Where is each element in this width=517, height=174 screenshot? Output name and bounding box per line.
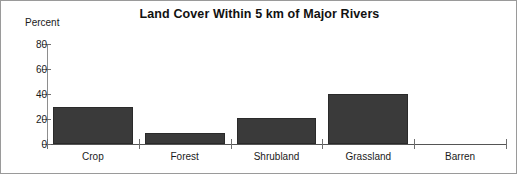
x-tick-mark: [506, 139, 507, 149]
y-tick-label: 40: [21, 89, 47, 100]
y-tick-label: 0: [21, 139, 47, 150]
chart-figure: Land Cover Within 5 km of Major Rivers P…: [0, 0, 517, 174]
category-label-barren: Barren: [445, 151, 475, 162]
bar-crop: [53, 107, 133, 145]
y-tick-label: 60: [21, 64, 47, 75]
chart-title: Land Cover Within 5 km of Major Rivers: [1, 7, 517, 21]
bar-grassland: [328, 94, 408, 144]
bar-forest: [145, 133, 225, 144]
plot-area: [47, 44, 506, 144]
category-label-forest: Forest: [171, 151, 199, 162]
category-label-crop: Crop: [82, 151, 104, 162]
bar-shrubland: [237, 118, 317, 144]
y-tick-label: 80: [21, 39, 47, 50]
y-tick-label: 20: [21, 114, 47, 125]
category-label-shrubland: Shrubland: [254, 151, 300, 162]
category-label-grassland: Grassland: [346, 151, 392, 162]
x-axis-line: [47, 144, 506, 145]
y-axis-label: Percent: [25, 17, 59, 28]
